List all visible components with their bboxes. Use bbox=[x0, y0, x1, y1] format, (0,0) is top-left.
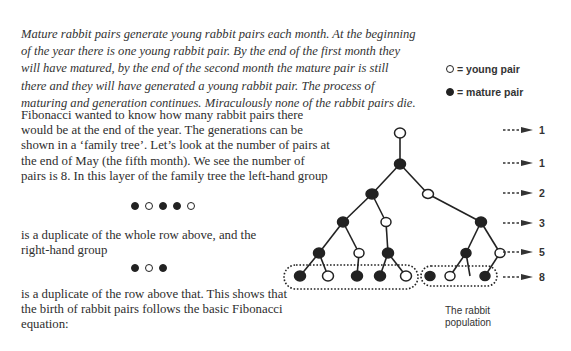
dashed-arrow-icon bbox=[503, 217, 533, 229]
group-outlines bbox=[284, 265, 497, 289]
row-count-label: 3 bbox=[539, 217, 545, 229]
row-count-2: 1 bbox=[503, 157, 545, 169]
dashed-arrow-icon bbox=[503, 124, 533, 136]
family-tree-diagram bbox=[0, 0, 571, 351]
row-count-4: 3 bbox=[503, 217, 545, 229]
row-count-label: 1 bbox=[539, 124, 545, 136]
row-count-label: 8 bbox=[539, 271, 545, 283]
dashed-arrow-icon bbox=[503, 246, 533, 258]
dashed-arrow-icon bbox=[503, 187, 533, 199]
dashed-arrow-icon bbox=[503, 271, 533, 283]
row-count-6: 8 bbox=[503, 271, 545, 283]
diagram-caption: The rabbit population bbox=[445, 305, 515, 329]
dashed-arrow-icon bbox=[503, 157, 533, 169]
row-count-1: 1 bbox=[503, 124, 545, 136]
row-count-label: 1 bbox=[539, 157, 545, 169]
row-count-label: 2 bbox=[539, 187, 545, 199]
row-count-3: 2 bbox=[503, 187, 545, 199]
row-count-5: 5 bbox=[503, 246, 545, 258]
row-count-label: 5 bbox=[539, 246, 545, 258]
